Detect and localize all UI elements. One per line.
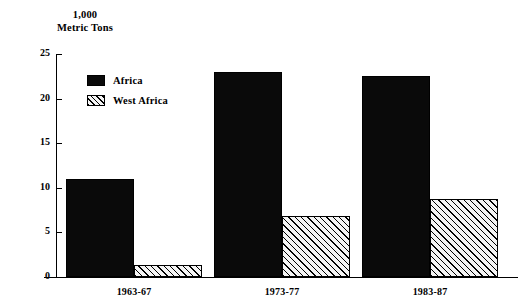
bar-west-africa-1983-87	[430, 199, 498, 277]
chart-legend: Africa West Africa	[87, 72, 168, 112]
y-axis-title-line-2: Metric Tons	[30, 21, 140, 34]
legend-item-west-africa: West Africa	[87, 92, 168, 109]
bar-west-africa-1963-67	[134, 265, 202, 277]
y-axis-title-line-1: 1,000	[30, 8, 140, 21]
x-tick-label-1973-77: 1973-77	[248, 286, 316, 297]
legend-label-west-africa: West Africa	[113, 95, 168, 106]
x-tick-label-1963-67: 1963-67	[100, 286, 168, 297]
legend-item-africa: Africa	[87, 72, 168, 89]
bar-africa-1963-67	[66, 179, 134, 277]
x-axis-line	[44, 277, 518, 278]
legend-label-africa: Africa	[113, 75, 143, 86]
legend-swatch-west-africa-icon	[87, 95, 105, 106]
x-tick-label-1983-87: 1983-87	[396, 286, 464, 297]
y-tick-label-20: 20	[24, 92, 50, 103]
bar-chart: 1,000 Metric Tons 25 20 15 10 5 0	[0, 0, 526, 304]
y-axis-title: 1,000 Metric Tons	[30, 8, 140, 34]
bar-africa-1983-87	[362, 76, 430, 277]
legend-swatch-africa-icon	[87, 75, 105, 86]
bar-africa-1973-77	[214, 72, 282, 277]
y-tick-label-15: 15	[24, 136, 50, 147]
bar-west-africa-1973-77	[282, 216, 350, 277]
y-tick-label-10: 10	[24, 181, 50, 192]
y-tick-label-0: 0	[24, 270, 50, 281]
y-tick-label-5: 5	[24, 225, 50, 236]
y-tick-label-25: 25	[24, 47, 50, 58]
